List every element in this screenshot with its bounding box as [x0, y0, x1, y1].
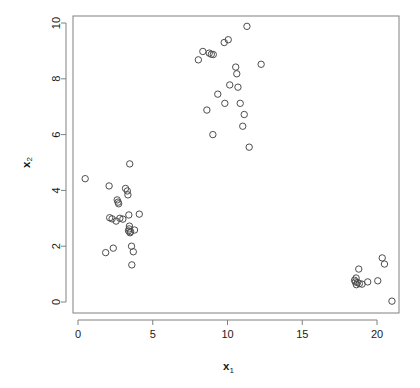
- y-tick-label: 8: [50, 76, 62, 82]
- y-tick-label: 4: [50, 187, 62, 193]
- y-tick-label: 2: [50, 243, 62, 249]
- y-tick-label: 6: [50, 132, 62, 138]
- plot-background: [0, 0, 420, 388]
- x-tick-label: 0: [75, 328, 81, 340]
- plot-canvas: 05101520 0246810 x1x2: [0, 0, 420, 388]
- x-tick-label: 5: [150, 328, 156, 340]
- x-tick-label: 15: [296, 328, 308, 340]
- scatter-plot: 05101520 0246810 x1x2: [0, 0, 420, 388]
- y-tick-label: 0: [50, 299, 62, 305]
- y-tick-label: 10: [50, 17, 62, 29]
- x-tick-label: 20: [371, 328, 383, 340]
- x-tick-label: 10: [221, 328, 233, 340]
